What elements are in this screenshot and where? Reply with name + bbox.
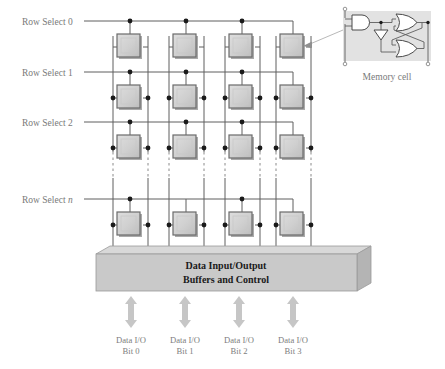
detail-node-dot-right [426, 21, 429, 24]
buffer-block-top-face [96, 246, 371, 254]
io-label-bit1-line2: Bit 1 [177, 346, 194, 356]
cell-r2c0[interactable] [117, 135, 142, 160]
io-arrow-bit2 [233, 296, 245, 328]
figure-canvas: Row Select 0 Row Select 1 Row Select 2 R… [0, 0, 445, 369]
terminal-top [343, 7, 347, 11]
cell-rnc0[interactable] [117, 212, 142, 237]
cell-r2c2[interactable] [229, 135, 254, 160]
row-select-drops [130, 21, 293, 214]
buffer-label-line2: Buffers and Control [183, 274, 269, 285]
row-select-label-1: Row Select 1 [22, 68, 73, 78]
memory-array-diagram: Row Select 0 Row Select 1 Row Select 2 R… [0, 0, 445, 369]
row-select-label-0: Row Select 0 [22, 17, 73, 27]
cell-r1c0[interactable] [117, 85, 142, 110]
buffer-block-side-face [357, 246, 371, 291]
cell-r2c1[interactable] [173, 135, 198, 160]
cell-rnc1[interactable] [173, 212, 198, 237]
terminal-bottom-right [426, 62, 430, 66]
cell-r0c2[interactable] [229, 34, 254, 59]
terminal-bottom-left [343, 62, 347, 66]
row-select-label-n: Row Select n [22, 195, 73, 205]
cell-r1c3[interactable] [280, 85, 305, 110]
data-io-buffer-block[interactable]: Data Input/Output Buffers and Control [96, 246, 371, 291]
memory-cell-detail: Memory cell [343, 7, 431, 82]
memory-cell-caption: Memory cell [363, 72, 412, 82]
cell-r1c2[interactable] [229, 85, 254, 110]
cell-r0c3[interactable] [280, 34, 305, 59]
io-label-bit2-line2: Bit 2 [231, 346, 248, 356]
io-label-bit0-line1: Data I/O [116, 335, 146, 345]
data-io-labels: Data I/O Bit 0 Data I/O Bit 1 Data I/O B… [116, 335, 308, 356]
io-label-bit0-line2: Bit 0 [123, 346, 140, 356]
io-arrow-bit1 [179, 296, 191, 328]
cell-r0c1[interactable] [173, 34, 198, 59]
cell-r2c3[interactable] [280, 135, 305, 160]
row-select-label-2: Row Select 2 [22, 118, 73, 128]
io-arrow-bit0 [125, 296, 137, 328]
memory-cell-array [117, 34, 305, 237]
io-label-bit1-line1: Data I/O [170, 335, 200, 345]
io-label-bit3-line2: Bit 3 [285, 346, 302, 356]
memory-cell-callout-arrow [303, 30, 343, 48]
cell-r0c0[interactable] [117, 34, 142, 59]
cell-r1c1[interactable] [173, 85, 198, 110]
io-label-bit2-line1: Data I/O [224, 335, 254, 345]
and-gate-icon [352, 15, 370, 30]
data-io-arrows [125, 296, 299, 328]
io-arrow-bit3 [287, 296, 299, 328]
io-label-bit3-line1: Data I/O [278, 335, 308, 345]
cell-rnc2[interactable] [229, 212, 254, 237]
buffer-label-line1: Data Input/Output [186, 260, 268, 271]
detail-node-dot [379, 21, 382, 24]
cell-rnc3[interactable] [280, 212, 305, 237]
